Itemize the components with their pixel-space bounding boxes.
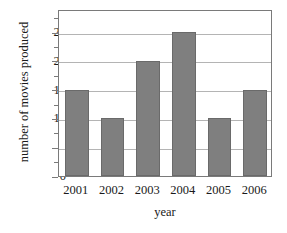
x-tick-label-2005: 2005 (199, 183, 239, 197)
bar-2005 (208, 118, 231, 176)
x-axis-title: year (58, 205, 272, 219)
bar-2001 (65, 90, 88, 176)
bar-2003 (136, 61, 159, 176)
x-tick-label-2002: 2002 (92, 183, 132, 197)
bar-2002 (101, 118, 124, 176)
y-axis-title: number of movies produced (16, 7, 32, 177)
bar-chart: number of movies produced 0510152025 200… (0, 0, 287, 233)
x-tick-label-2006: 2006 (234, 183, 274, 197)
x-tick-label-2001: 2001 (56, 183, 96, 197)
x-tick-label-2004: 2004 (163, 183, 203, 197)
plot-area (58, 10, 272, 177)
x-tick-label-2003: 2003 (127, 183, 167, 197)
bar-2004 (172, 32, 195, 176)
bar-series (59, 11, 271, 176)
bar-2006 (243, 90, 266, 176)
